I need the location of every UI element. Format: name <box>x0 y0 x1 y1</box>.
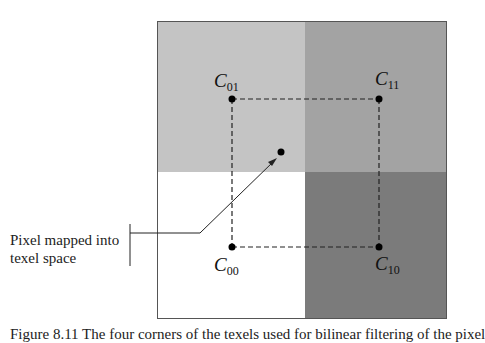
figure-caption: Figure 8.11 The four corners of the texe… <box>10 326 485 343</box>
callout-text: Pixel mapped into texel space <box>10 231 119 267</box>
corner-dot-c11 <box>376 96 383 103</box>
corner-label-c00: C00 <box>214 254 239 279</box>
sample-point-dot <box>278 149 285 156</box>
callout-line-1: Pixel mapped into <box>10 231 119 249</box>
corner-label-c01: C01 <box>214 70 239 95</box>
corner-dot-c10 <box>376 244 383 251</box>
corner-label-c10: C10 <box>375 253 400 278</box>
corner-dot-c00 <box>229 244 236 251</box>
corner-label-c11: C11 <box>375 68 399 93</box>
corner-dot-c01 <box>229 96 236 103</box>
callout-line-2: texel space <box>10 249 119 267</box>
